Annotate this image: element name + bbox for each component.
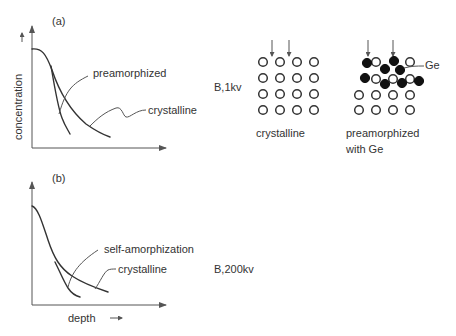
crystalline-lattice: crystalline — [256, 40, 318, 139]
crystalline-label-b: crystalline — [118, 263, 167, 275]
crystalline-curve-a — [32, 49, 110, 137]
ge-leader — [404, 66, 424, 68]
crystalline-curve-b — [32, 206, 108, 292]
condition-label-b: B,200kv — [214, 263, 254, 275]
y-axis-label: concentration — [12, 74, 24, 140]
panel-b-label: (b) — [52, 172, 65, 184]
diagram-canvas: (a) concentration preamorphized crystall… — [0, 0, 456, 336]
self-amorphization-curve — [55, 262, 80, 297]
self-amorphization-label: self-amorphization — [104, 243, 194, 255]
crystalline-caption: crystalline — [256, 127, 305, 139]
ge-label: Ge — [425, 59, 440, 71]
crystalline-leader-a — [90, 108, 146, 126]
preamorphized-caption-line2: with Ge — [345, 143, 383, 155]
panel-a: (a) concentration preamorphized crystall… — [12, 15, 242, 148]
panel-a-label: (a) — [52, 15, 65, 27]
x-axis-label: depth — [68, 312, 96, 324]
panel-b: (b) self-amorphization crystalline B,200… — [32, 172, 254, 324]
si-atoms — [259, 58, 319, 115]
preamorphized-lattice: Ge preamorphized with Ge — [345, 40, 440, 155]
crystalline-label-a: crystalline — [148, 104, 197, 116]
preamorphized-caption-line1: preamorphized — [346, 127, 419, 139]
crystalline-leader-b — [95, 269, 116, 289]
preamorphized-label: preamorphized — [93, 67, 166, 79]
condition-label-a: B,1kv — [214, 81, 242, 93]
